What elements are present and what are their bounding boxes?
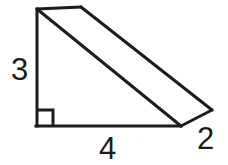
- edge-top-depth: [37, 7, 81, 9]
- edge-back-hypotenuse: [81, 7, 212, 110]
- right-angle-mark-icon: [37, 110, 53, 126]
- geometry-figure: 3 4 2: [0, 0, 228, 165]
- dimension-label-depth: 2: [197, 123, 214, 154]
- dimension-label-base: 4: [99, 133, 116, 164]
- dimension-label-height: 3: [11, 54, 28, 85]
